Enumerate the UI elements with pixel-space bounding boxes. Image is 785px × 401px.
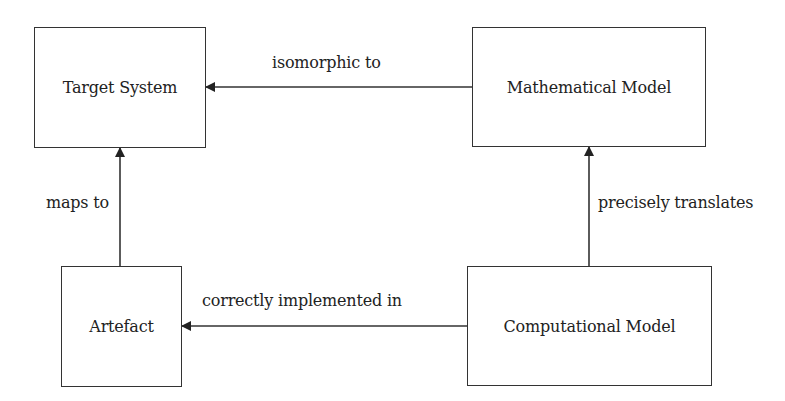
node-label: Artefact: [89, 317, 153, 336]
node-label: Mathematical Model: [507, 78, 671, 97]
node-mathematical-model: Mathematical Model: [472, 27, 706, 147]
edge-label-precisely-translates: precisely translates: [598, 193, 753, 212]
node-label: Target System: [63, 78, 178, 97]
node-label: Computational Model: [504, 317, 676, 336]
node-target-system: Target System: [34, 27, 206, 148]
node-computational-model: Computational Model: [467, 266, 712, 386]
edge-label-correctly-implemented-in: correctly implemented in: [202, 291, 402, 310]
edge-label-isomorphic-to: isomorphic to: [272, 53, 381, 72]
edge-label-maps-to: maps to: [46, 193, 109, 212]
node-artefact: Artefact: [61, 266, 182, 387]
